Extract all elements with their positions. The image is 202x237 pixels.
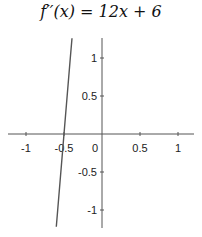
y-tick-label: -1 [87,204,97,216]
y-tick-label: -0.5 [78,166,97,178]
x-tick-label: -1 [21,142,31,154]
plot-area: -1-0.500.5110.5-0.5-1 [0,0,202,237]
x-tick-label: 0 [92,142,98,154]
y-tick-label: 1 [91,52,97,64]
x-tick-label: 0.5 [132,142,147,154]
x-tick-label: -0.5 [55,142,74,154]
function-line [56,38,72,227]
x-tick-label: 1 [175,142,181,154]
y-tick-label: 0.5 [82,90,97,102]
